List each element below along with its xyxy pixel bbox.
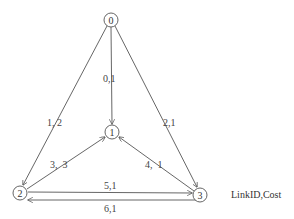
node-1-label: 1 (110, 127, 115, 138)
node-3-label: 3 (198, 190, 203, 201)
edge-label-2: 2,1 (163, 117, 176, 128)
edge-3-to-2 (28, 200, 199, 202)
edge-label-3: 3, 3 (50, 159, 68, 170)
edge-label-5: 5,1 (104, 180, 117, 191)
node-0-label: 0 (109, 15, 114, 26)
legend-label: LinkID,Cost (231, 189, 282, 200)
edge-label-6: 6,1 (104, 203, 117, 214)
node-0: 0 (104, 13, 118, 27)
network-graph: 0,1 1, 2 2,1 3, 3 4, 1 5,1 6,1 0 1 2 3 L… (0, 0, 294, 219)
node-2-label: 2 (18, 188, 23, 199)
edge-2-to-3 (28, 192, 192, 193)
node-1: 1 (105, 125, 119, 139)
edge-label-1: 1, 2 (47, 117, 62, 128)
edge-label-4: 4, 1 (145, 159, 163, 170)
edge-label-0: 0,1 (103, 73, 116, 84)
node-2: 2 (13, 186, 27, 200)
node-3: 3 (193, 188, 207, 202)
